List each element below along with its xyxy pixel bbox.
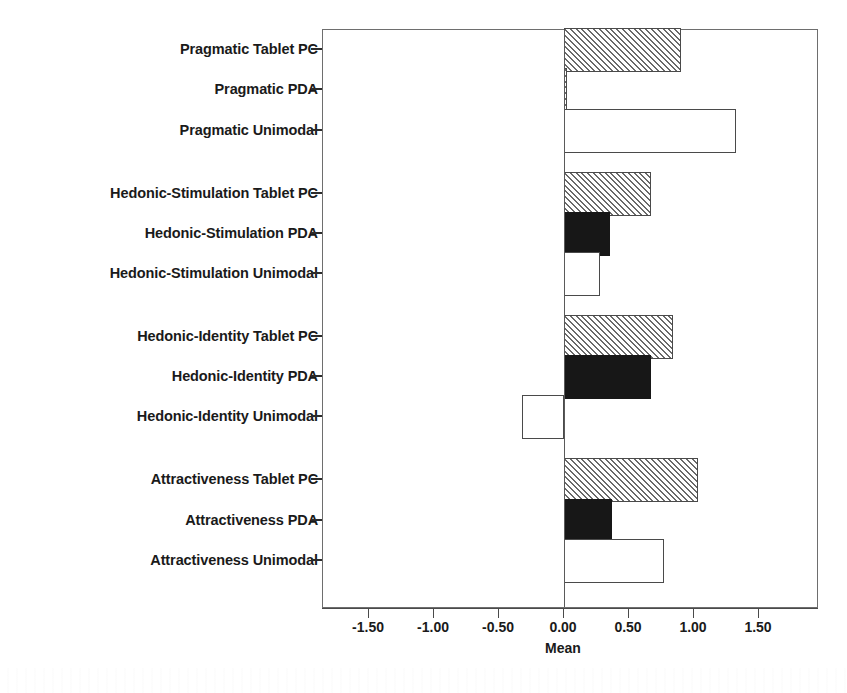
plot-area: [322, 29, 818, 608]
x-tick: [563, 609, 564, 618]
bar-hedonic-stimulation-tablet-pc: [564, 172, 651, 216]
category-label-hedonic-identity-tablet-pc: Hedonic-Identity Tablet PC: [137, 329, 318, 344]
x-tick: [628, 609, 629, 618]
category-tick: [311, 415, 322, 417]
zero-reference-line: [564, 30, 565, 607]
category-tick: [311, 272, 322, 274]
bar-hedonic-identity-unimodal: [522, 395, 564, 439]
category-tick: [311, 192, 322, 194]
x-tick-label: -1.50: [352, 620, 384, 634]
x-tick: [693, 609, 694, 618]
category-tick: [311, 478, 322, 480]
x-axis-title: Mean: [545, 641, 581, 655]
category-label-pragmatic-pda: Pragmatic PDA: [215, 82, 318, 97]
horizontal-bar-chart: Pragmatic Tablet PCPragmatic PDAPragmati…: [0, 0, 847, 693]
category-label-hedonic-stimulation-pda: Hedonic-Stimulation PDA: [145, 226, 318, 241]
category-label-hedonic-stimulation-unimodal: Hedonic-Stimulation Unimodal: [110, 266, 318, 281]
x-tick-label: 0.50: [614, 620, 641, 634]
bar-hedonic-stimulation-unimodal: [564, 252, 600, 296]
bar-pragmatic-unimodal: [564, 109, 736, 153]
category-tick: [311, 375, 322, 377]
bars-layer: [323, 30, 817, 607]
x-tick-label: 0.00: [549, 620, 576, 634]
bar-hedonic-identity-pda: [564, 355, 651, 399]
category-label-attractiveness-unimodal: Attractiveness Unimodal: [150, 553, 318, 568]
x-tick-label: 1.50: [744, 620, 771, 634]
category-tick: [311, 232, 322, 234]
x-tick-label: -0.50: [482, 620, 514, 634]
bar-attractiveness-tablet-pc: [564, 458, 698, 502]
category-label-column: Pragmatic Tablet PCPragmatic PDAPragmati…: [0, 0, 318, 693]
bar-attractiveness-pda: [564, 499, 612, 543]
x-tick: [368, 609, 369, 618]
bar-attractiveness-unimodal: [564, 539, 664, 583]
category-label-pragmatic-unimodal: Pragmatic Unimodal: [180, 122, 318, 137]
x-tick-label: -1.00: [417, 620, 449, 634]
category-tick: [311, 335, 322, 337]
category-tick: [311, 129, 322, 131]
bar-hedonic-stimulation-pda: [564, 212, 610, 256]
category-label-hedonic-identity-unimodal: Hedonic-Identity Unimodal: [137, 409, 318, 424]
category-label-attractiveness-tablet-pc: Attractiveness Tablet PC: [151, 472, 318, 487]
category-label-hedonic-identity-pda: Hedonic-Identity PDA: [172, 369, 318, 384]
category-label-hedonic-stimulation-tablet-pc: Hedonic-Stimulation Tablet PC: [110, 185, 318, 200]
x-tick: [433, 609, 434, 618]
category-tick: [311, 88, 322, 90]
bar-hedonic-identity-tablet-pc: [564, 315, 673, 359]
bar-pragmatic-tablet-pc: [564, 28, 681, 72]
x-tick: [758, 609, 759, 618]
category-label-attractiveness-pda: Attractiveness PDA: [185, 512, 318, 527]
category-label-pragmatic-tablet-pc: Pragmatic Tablet PC: [180, 42, 318, 57]
x-axis-line: [322, 608, 818, 609]
category-tick: [311, 559, 322, 561]
category-tick: [311, 519, 322, 521]
x-tick: [498, 609, 499, 618]
x-tick-label: 1.00: [679, 620, 706, 634]
category-tick: [311, 48, 322, 50]
